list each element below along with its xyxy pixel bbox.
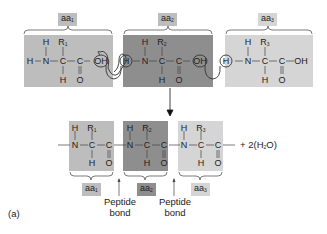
- label-subscript: 3: [271, 17, 274, 23]
- atom-o: O: [159, 159, 169, 168]
- label-subscript: 1: [71, 17, 74, 23]
- atom-c-alpha: C: [260, 57, 270, 66]
- atom-h: H: [87, 159, 97, 168]
- atom-o: O: [277, 76, 287, 85]
- atom-c-carboxyl: C: [75, 57, 85, 66]
- atom-h: H: [121, 57, 131, 66]
- atom-c-carboxyl: C: [174, 57, 184, 66]
- atom-h: H: [260, 76, 270, 85]
- atom-o: O: [104, 159, 114, 168]
- atom-n: N: [179, 141, 189, 150]
- atom-o: O: [75, 76, 85, 85]
- panel-label: (a): [8, 208, 20, 219]
- atom-h: H: [140, 38, 150, 47]
- atom-h: H: [58, 76, 68, 85]
- brace-aa3-top: [226, 26, 312, 34]
- atom-r: R2: [142, 124, 152, 135]
- brace-aa1-bottom: [70, 172, 113, 180]
- atom-oh: OH: [294, 57, 308, 66]
- brace-aa2-top: [124, 26, 212, 34]
- atom-h: H: [196, 159, 206, 168]
- brace-aa2-bottom: [124, 172, 167, 180]
- atom-h: H: [25, 57, 35, 66]
- atom-h: H: [221, 57, 231, 66]
- atom-n: N: [70, 141, 80, 150]
- atom-r: R1: [87, 124, 97, 135]
- atom-c-carboxyl: C: [213, 141, 223, 150]
- atom-h: H: [70, 124, 80, 133]
- atom-n: N: [140, 57, 150, 66]
- reactant-aa3-label: aa3: [258, 13, 277, 26]
- atom-h: H: [125, 124, 135, 133]
- atom-o: O: [213, 159, 223, 168]
- atom-r: R3: [196, 124, 206, 135]
- atom-c-alpha: C: [196, 141, 206, 150]
- atom-h: H: [243, 38, 253, 47]
- product-aa3-label: aa3: [191, 183, 210, 196]
- atom-c-carboxyl: C: [104, 141, 114, 150]
- label-text: aa: [61, 13, 71, 23]
- atom-h: H: [179, 124, 189, 133]
- label-subscript: 2: [171, 17, 174, 23]
- atom-n: N: [41, 57, 51, 66]
- water-loop-2: [205, 65, 220, 79]
- atom-c-alpha: C: [142, 141, 152, 150]
- atom-c-carboxyl: C: [277, 57, 287, 66]
- atom-oh: OH: [193, 57, 207, 66]
- brace-aa1-top: [24, 26, 112, 34]
- label-text: aa: [161, 13, 171, 23]
- atom-h: H: [142, 159, 152, 168]
- peptide-bond-label-2: Peptide bond: [153, 196, 197, 218]
- atom-c-alpha: C: [157, 57, 167, 66]
- atom-h: H: [41, 38, 51, 47]
- label-text: aa: [261, 13, 271, 23]
- reactant-aa2-label: aa2: [158, 13, 177, 26]
- atom-c-alpha: C: [87, 141, 97, 150]
- atom-r: R2: [157, 38, 167, 49]
- atom-h: H: [157, 76, 167, 85]
- atom-oh: OH: [94, 57, 108, 66]
- atom-o: O: [174, 76, 184, 85]
- product-aa1-label: aa1: [82, 183, 101, 196]
- atom-r: R1: [58, 38, 68, 49]
- atom-c-carboxyl: C: [159, 141, 169, 150]
- reactant-aa1-label: aa1: [58, 13, 77, 26]
- atom-r: R3: [260, 38, 270, 49]
- reaction-arrow-head: [167, 110, 173, 116]
- peptide-bond-label-1: Peptide bond: [98, 196, 142, 218]
- brace-aa3-bottom: [179, 172, 222, 180]
- atom-c-alpha: C: [58, 57, 68, 66]
- water-byproduct: + 2(H2O): [240, 139, 277, 153]
- product-aa2-label: aa2: [137, 183, 156, 196]
- atom-n: N: [125, 141, 135, 150]
- atom-n: N: [243, 57, 253, 66]
